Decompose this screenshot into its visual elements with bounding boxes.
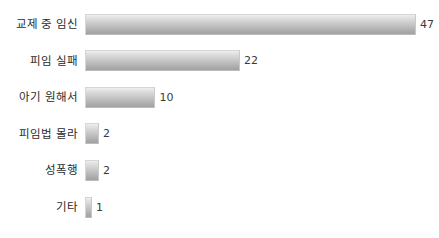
category-label: 피임 실패 [0, 50, 78, 72]
chart-plot-area: 교제 중 임신47피임 실패22아기 원해서10피임법 몰라2성폭행2기타1 [0, 0, 439, 238]
category-label: 기타 [0, 196, 78, 218]
bar-group: 1 [85, 196, 103, 218]
bar-group: 2 [85, 123, 110, 145]
bar-value-label: 10 [159, 87, 173, 108]
bar-value-label: 2 [103, 123, 110, 144]
bar-row: 피임 실패22 [0, 50, 439, 72]
bar [85, 50, 240, 71]
bar-group: 22 [85, 50, 258, 72]
category-label: 피임법 몰라 [0, 123, 78, 145]
bar-value-label: 1 [96, 197, 103, 218]
bar-row: 교제 중 임신47 [0, 13, 439, 35]
category-label: 성폭행 [0, 159, 78, 181]
bar [85, 87, 155, 108]
category-label: 아기 원해서 [0, 86, 78, 108]
bar-row: 성폭행2 [0, 159, 439, 181]
bar [85, 14, 416, 35]
bar [85, 123, 99, 144]
bar-row: 아기 원해서10 [0, 86, 439, 108]
category-label: 교제 중 임신 [0, 13, 78, 35]
bar-row: 피임법 몰라2 [0, 123, 439, 145]
bar [85, 160, 99, 181]
bar [85, 197, 92, 218]
bar-group: 10 [85, 86, 173, 108]
bar-chart: 교제 중 임신47피임 실패22아기 원해서10피임법 몰라2성폭행2기타1 [0, 0, 439, 238]
bar-value-label: 47 [420, 14, 434, 35]
bar-group: 47 [85, 13, 434, 35]
bar-row: 기타1 [0, 196, 439, 218]
bar-group: 2 [85, 159, 110, 181]
bar-value-label: 22 [244, 50, 258, 71]
bar-value-label: 2 [103, 160, 110, 181]
